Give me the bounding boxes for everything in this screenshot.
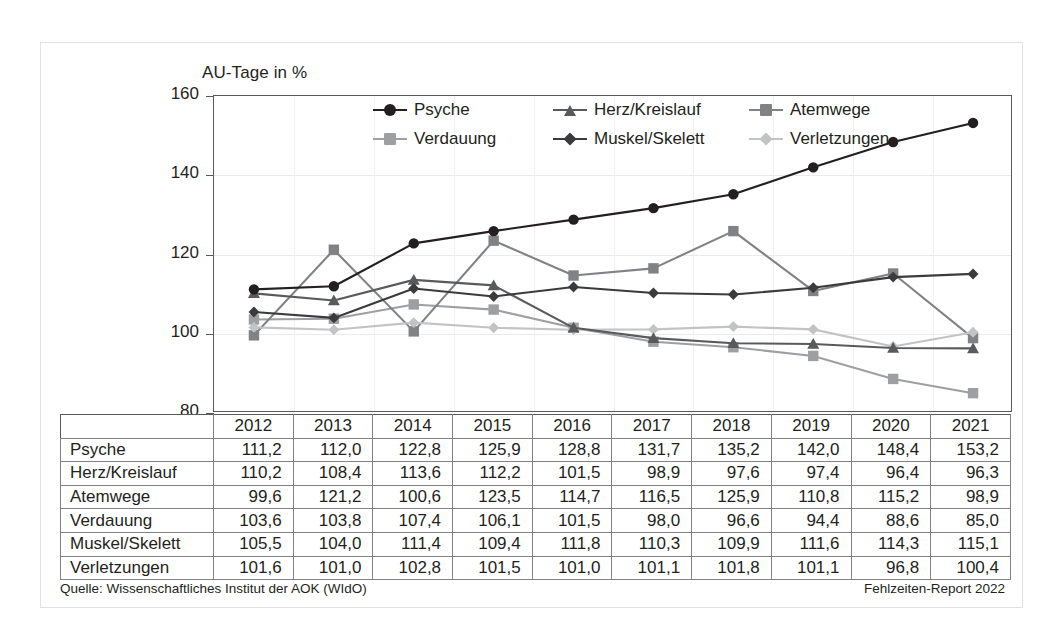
report-figure-frame: AU-Tage in % 16014012010080 PsycheHerz/K… (40, 42, 1023, 608)
table-cell-value: 106,1 (453, 509, 533, 533)
table-cell-value: 102,8 (373, 556, 453, 580)
table-cell-value: 112,0 (293, 438, 373, 462)
table-cell-value: 153,2 (931, 438, 1011, 462)
table-cell-value: 88,6 (851, 509, 931, 533)
table-cell-value: 101,5 (453, 556, 533, 580)
legend-label: Atemwege (790, 100, 870, 120)
legend-label: Psyche (414, 100, 470, 120)
table-cell-value: 148,4 (851, 438, 931, 462)
table-cell-value: 121,2 (293, 485, 373, 509)
table-cell-value: 123,5 (453, 485, 533, 509)
table-cell-value: 107,4 (373, 509, 453, 533)
data-point (328, 324, 339, 335)
table-cell-value: 111,4 (373, 532, 453, 556)
table-row: Psyche111,2112,0122,8125,9128,8131,7135,… (61, 438, 1011, 462)
legend-item-verdauung[interactable]: Verdauung (373, 129, 553, 149)
data-point (568, 270, 578, 280)
table-cell-value: 104,0 (293, 532, 373, 556)
table-cell-value: 100,4 (931, 556, 1011, 580)
data-point (409, 299, 419, 309)
legend-item-verletzungen[interactable]: Verletzungen (749, 129, 929, 149)
table-cell-value: 116,5 (612, 485, 692, 509)
table-year-header: 2020 (851, 415, 931, 439)
table-cell-value: 101,8 (692, 556, 772, 580)
table-cell-value: 110,3 (612, 532, 692, 556)
table-row-label: Verletzungen (61, 556, 214, 580)
table-cell-value: 101,5 (532, 509, 612, 533)
series-verdauung (249, 299, 979, 398)
data-point (968, 118, 978, 128)
table-year-header: 2013 (293, 415, 373, 439)
data-point (808, 351, 818, 361)
table-cell-value: 128,8 (532, 438, 612, 462)
table-cell-value: 114,7 (532, 485, 612, 509)
table-cell-value: 112,2 (453, 462, 533, 486)
table-year-header: 2012 (214, 415, 294, 439)
table-row: Verdauung103,6103,8107,4106,1101,598,096… (61, 509, 1011, 533)
legend-label: Verletzungen (790, 129, 889, 149)
table-cell-value: 94,4 (771, 509, 851, 533)
table-cell-value: 135,2 (692, 438, 772, 462)
table-cell-value: 85,0 (931, 509, 1011, 533)
table-cell-value: 101,1 (612, 556, 692, 580)
table-cell-value: 96,6 (692, 509, 772, 533)
table-header: 2012201320142015201620172018201920202021 (61, 415, 1011, 439)
table-year-header: 2016 (532, 415, 612, 439)
table-cell-value: 125,9 (453, 438, 533, 462)
table-cell-value: 105,5 (214, 532, 294, 556)
series-atemwege (249, 226, 979, 343)
legend-marker-icon (373, 103, 407, 117)
legend-marker-icon (553, 132, 587, 146)
data-point (808, 162, 818, 172)
data-point (968, 268, 979, 279)
chart-legend: PsycheHerz/KreislaufAtemwegeVerdauungMus… (373, 95, 929, 153)
figure-footer: Quelle: Wissenschaftliches Institut der … (60, 581, 1005, 596)
table-row: Atemwege99,6121,2100,6123,5114,7116,5125… (61, 485, 1011, 509)
data-point (409, 238, 419, 248)
table-cell-value: 115,2 (851, 485, 931, 509)
table-year-header: 2015 (453, 415, 533, 439)
table-cell-value: 110,2 (214, 462, 294, 486)
table-year-header: 2014 (373, 415, 453, 439)
table-cell-value: 131,7 (612, 438, 692, 462)
table-cell-value: 101,0 (293, 556, 373, 580)
data-point (728, 289, 739, 300)
table-cell-value: 98,0 (612, 509, 692, 533)
table-cell-value: 103,8 (293, 509, 373, 533)
report-note: Fehlzeiten-Report 2022 (864, 581, 1005, 596)
data-point (488, 304, 498, 314)
legend-label: Muskel/Skelett (594, 129, 705, 149)
data-point (648, 287, 659, 298)
table-cell-value: 98,9 (931, 485, 1011, 509)
table-cell-value: 113,6 (373, 462, 453, 486)
table-cell-value: 115,1 (931, 532, 1011, 556)
table-cell-value: 103,6 (214, 509, 294, 533)
table-corner-cell (61, 415, 214, 439)
table-row-label: Muskel/Skelett (61, 532, 214, 556)
data-point (408, 283, 419, 294)
data-point (728, 189, 738, 199)
legend-item-muskel-skelett[interactable]: Muskel/Skelett (553, 129, 749, 149)
table-row: Muskel/Skelett105,5104,0111,4109,4111,81… (61, 532, 1011, 556)
data-point (488, 291, 499, 302)
y-axis-tick-label: 160 (141, 84, 199, 104)
data-point (888, 374, 898, 384)
legend-item-psyche[interactable]: Psyche (373, 100, 553, 120)
chart-axis-title: AU-Tage in % (202, 63, 307, 83)
legend-marker-icon (373, 132, 407, 146)
legend-item-atemwege[interactable]: Atemwege (749, 100, 929, 120)
data-point (728, 226, 738, 236)
data-point (568, 214, 578, 224)
table-row-label: Psyche (61, 438, 214, 462)
table-cell-value: 114,3 (851, 532, 931, 556)
table-cell-value: 125,9 (692, 485, 772, 509)
data-point (329, 281, 339, 291)
legend-item-herz-kreislauf[interactable]: Herz/Kreislauf (553, 100, 749, 120)
table-cell-value: 96,8 (851, 556, 931, 580)
table-row-label: Herz/Kreislauf (61, 462, 214, 486)
table-cell-value: 101,0 (532, 556, 612, 580)
table-cell-value: 96,4 (851, 462, 931, 486)
table-cell-value: 96,3 (931, 462, 1011, 486)
legend-label: Verdauung (414, 129, 496, 149)
table-cell-value: 97,6 (692, 462, 772, 486)
